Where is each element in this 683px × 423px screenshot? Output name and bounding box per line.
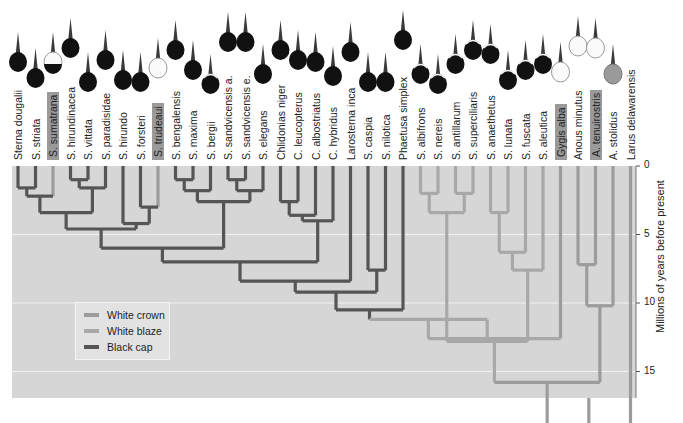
species-name: C. albostriatus — [310, 93, 322, 160]
species-name: Phaetusa simplex — [397, 77, 409, 160]
species-label: S. forsteri — [135, 115, 147, 160]
species-name: S. striata — [30, 119, 42, 160]
species-name: S. caspia — [362, 117, 374, 160]
species-name: S. fuscata — [520, 113, 532, 160]
species-label: S. albifrons — [415, 107, 427, 160]
species-name: S. nilotica — [380, 114, 392, 160]
tern-head-icon — [114, 70, 132, 90]
axis-tick-label: 15 — [644, 365, 655, 376]
species-label: C. hybridus — [327, 107, 339, 160]
tern-head-icon — [359, 72, 377, 92]
species-name: S. aleutica — [537, 111, 549, 160]
tern-head-icon — [132, 72, 150, 92]
species-name: S. antillarum — [450, 102, 462, 160]
legend-item-white-crown: White crown — [84, 308, 165, 322]
species-label: S. fuscata — [520, 113, 532, 160]
species-name: Chlidonias niger — [275, 85, 287, 160]
tern-head-icon — [307, 52, 325, 72]
species-label: S. sumatrana — [47, 92, 59, 160]
species-name: S. forsteri — [135, 115, 147, 160]
species-name: S. hirundo — [117, 112, 129, 160]
species-label: Phaetusa simplex — [397, 77, 409, 160]
species-label: C. leucopterus — [292, 92, 304, 160]
tern-head-icon — [394, 30, 412, 50]
species-name: S. bergii — [205, 121, 217, 160]
species-label: S. sandvicensis a. — [222, 75, 234, 160]
tern-head-icon — [237, 32, 255, 52]
species-label: S. vittata — [82, 119, 94, 160]
species-label: Larus delawarensis — [625, 70, 637, 160]
species-label: A. tenuirostris — [590, 90, 602, 160]
species-name: S. albifrons — [415, 107, 427, 160]
species-name: S. elegans — [257, 110, 269, 160]
species-label: S. superciliaris — [467, 92, 479, 160]
species-label: Larosterna inca — [345, 88, 357, 160]
species-label: S. trudeaui — [152, 103, 164, 160]
legend-item-black-cap: Black cap — [84, 340, 153, 354]
legend-label: Black cap — [107, 341, 153, 353]
legend-item-white-blaze: White blaze — [84, 324, 162, 338]
species-label: S. hirundo — [117, 112, 129, 160]
tern-head-icon — [219, 32, 237, 52]
species-name: S. trudeaui — [152, 103, 164, 160]
axis-tick-label: 5 — [644, 228, 650, 239]
tern-head-icon — [167, 40, 185, 60]
tern-head-icon — [97, 50, 115, 70]
species-label: S. antillarum — [450, 102, 462, 160]
tern-head-icon — [149, 58, 167, 78]
species-name: S. paradisidae — [100, 93, 112, 160]
tern-head-icon — [62, 38, 80, 58]
species-name: C. hybridus — [327, 107, 339, 160]
species-label: S. nilotica — [380, 114, 392, 160]
species-label: A. stolidus — [607, 112, 619, 160]
axis-title: Millions of years before present — [654, 180, 666, 333]
species-name: Anous minutus — [572, 91, 584, 160]
species-name: S. superciliaris — [467, 92, 479, 160]
species-name: S. nereis — [432, 119, 444, 160]
species-label: S. lunata — [502, 119, 514, 160]
tern-head-icon — [272, 40, 290, 60]
axis-tick-label: 0 — [644, 159, 650, 170]
species-label: S. paradisidae — [100, 93, 112, 160]
species-name: Larus delawarensis — [625, 70, 637, 160]
tern-head-icon — [27, 68, 45, 88]
white-crown-swatch — [84, 313, 99, 317]
species-name: S. vittata — [82, 119, 94, 160]
white-blaze-swatch — [84, 329, 99, 333]
species-name: S. sandvicensis a. — [222, 75, 234, 160]
species-label: S. maxima — [187, 110, 199, 160]
species-name: S. hirundinacea — [65, 87, 77, 160]
tern-head-icon — [604, 64, 622, 84]
tern-head-icon — [552, 62, 570, 82]
species-label: Sterna dougalii — [12, 90, 24, 160]
species-label: S. caspia — [362, 117, 374, 160]
species-label: S. bengalensis — [170, 91, 182, 160]
species-label: S. nereis — [432, 119, 444, 160]
species-name: A. stolidus — [607, 112, 619, 160]
tern-head-icon — [342, 42, 360, 62]
black-nape-icon — [44, 64, 62, 74]
tern-head-icon — [79, 72, 97, 92]
black-cap-swatch — [84, 345, 99, 349]
species-label: S. elegans — [257, 110, 269, 160]
species-label: Anous minutus — [572, 91, 584, 160]
phylogeny-figure: Sterna dougaliiS. striataS. sumatranaS. … — [0, 0, 683, 423]
tern-head-icon — [289, 50, 307, 70]
species-label: C. albostriatus — [310, 93, 322, 160]
legend-label: White crown — [107, 309, 165, 321]
species-name: C. leucopterus — [292, 92, 304, 160]
tern-head-icon — [324, 66, 342, 86]
tern-head-icon — [569, 36, 587, 56]
tern-head-icon — [9, 52, 27, 72]
tern-head-icon — [254, 64, 272, 84]
species-name: Sterna dougalii — [12, 90, 24, 160]
species-label: Chlidonias niger — [275, 85, 287, 160]
legend-label: White blaze — [107, 325, 162, 337]
tern-head-icon — [377, 72, 395, 92]
species-label: S. striata — [30, 119, 42, 160]
species-label: Gygis alba — [555, 104, 567, 160]
species-label: S. aleutica — [537, 111, 549, 160]
species-name: A. tenuirostris — [590, 90, 602, 160]
species-name: S. sumatrana — [47, 92, 59, 160]
species-name: S. sandvicensis e. — [240, 75, 252, 160]
